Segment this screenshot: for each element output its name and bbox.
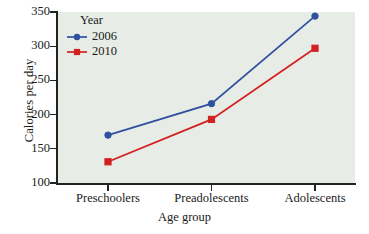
- legend-title: Year: [80, 14, 117, 27]
- x-tick-label: Preschoolers: [76, 191, 140, 206]
- x-tick-label: Adolescents: [284, 191, 345, 206]
- legend-entry-2010: 2010: [66, 45, 117, 59]
- data-point-2010: [312, 45, 318, 51]
- legend-label: 2006: [92, 30, 117, 43]
- x-tick-label: Preadolescents: [174, 191, 248, 206]
- legend-entry-group: 20062010: [66, 30, 117, 59]
- legend-swatch-square-icon: [66, 46, 88, 58]
- x-axis-title: Age group: [0, 210, 369, 225]
- line-chart: Calories per day 100150200250300350 Pres…: [0, 0, 369, 234]
- legend-label: 2010: [92, 45, 117, 58]
- data-point-2006: [105, 132, 111, 138]
- legend-entry-2006: 2006: [66, 30, 117, 44]
- data-point-2010: [208, 116, 214, 122]
- legend: Year 20062010: [66, 14, 117, 60]
- data-point-2006: [208, 100, 214, 106]
- legend-swatch-circle-icon: [66, 31, 88, 43]
- data-point-2010: [105, 159, 111, 165]
- data-point-2006: [312, 13, 318, 19]
